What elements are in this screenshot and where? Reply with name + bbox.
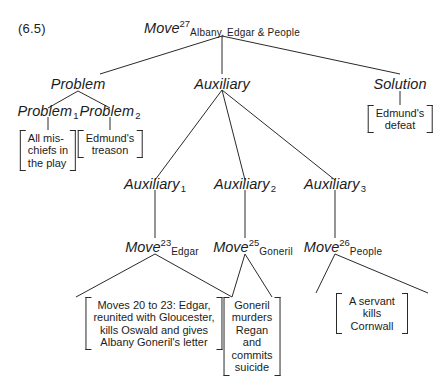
bracket-right — [136, 130, 142, 158]
leaf-move-23: Moves 20 to 23: Edgar, reunited with Glo… — [85, 297, 222, 350]
node-auxiliary: Auxiliary — [194, 77, 250, 92]
leaf-solution: Edmund's defeat — [368, 105, 433, 133]
leaf-problem-2: Edmund's treason — [78, 130, 143, 158]
node-auxiliary-3-label: Auxiliary — [304, 176, 360, 192]
leaf-problem-1: All mis- chiefs in the play — [20, 130, 76, 171]
node-move-26-subscript: People — [350, 246, 382, 257]
node-auxiliary-2-index: 2 — [270, 183, 276, 194]
bracket-right — [402, 293, 408, 334]
node-auxiliary-3: Auxiliary3 — [304, 177, 366, 193]
bracket-right — [426, 105, 432, 133]
node-move-23-name: Move — [125, 239, 160, 255]
node-solution: Solution — [373, 77, 426, 92]
leaf-problem-2-text: Edmund's treason — [84, 130, 137, 158]
syntax-tree-figure: (6.5) — [0, 0, 444, 391]
bracket-right — [274, 297, 280, 376]
node-problem-label: Problem — [51, 76, 106, 92]
node-auxiliary-1: Auxiliary1 — [124, 177, 186, 193]
node-auxiliary-1-label: Auxiliary — [124, 176, 180, 192]
leaf-solution-text: Edmund's defeat — [374, 105, 427, 133]
node-problem-2: Problem2 — [79, 104, 140, 120]
node-move-23: Move23Edgar — [125, 238, 199, 257]
bracket-right — [217, 297, 223, 350]
node-move-27-subscript: Albany, Edgar & People — [190, 27, 300, 38]
node-move-26-superscript: 26 — [339, 237, 350, 248]
node-move-26: Move26People — [304, 238, 382, 257]
leaf-move-25: Goneril murders Regan and commits suicid… — [224, 297, 281, 376]
node-problem-2-index: 2 — [134, 110, 140, 121]
node-auxiliary-2: Auxiliary2 — [214, 177, 276, 193]
node-move-23-subscript: Edgar — [171, 246, 199, 257]
node-move-27: Move27Albany, Edgar & People — [144, 19, 300, 38]
node-move-23-superscript: 23 — [161, 237, 172, 248]
node-move-27-superscript: 27 — [180, 18, 191, 29]
node-move-25: Move25Goneril — [213, 238, 293, 257]
leaf-problem-1-text: All mis- chiefs in the play — [26, 130, 70, 171]
node-problem-2-label: Problem — [79, 103, 134, 119]
node-auxiliary-label: Auxiliary — [194, 76, 250, 92]
node-auxiliary-2-label: Auxiliary — [214, 176, 270, 192]
leaf-move-23-text: Moves 20 to 23: Edgar, reunited with Glo… — [91, 297, 216, 350]
node-move-25-subscript: Goneril — [259, 246, 293, 257]
node-move-25-name: Move — [213, 239, 248, 255]
bracket-right — [70, 130, 76, 171]
figure-number: (6.5) — [18, 21, 46, 36]
node-move-25-superscript: 25 — [249, 237, 260, 248]
node-move-26-name: Move — [304, 239, 339, 255]
leaf-move-25-text: Goneril murders Regan and commits suicid… — [230, 297, 275, 376]
node-auxiliary-1-index: 1 — [180, 183, 186, 194]
node-problem: Problem — [51, 77, 106, 92]
node-problem-1: Problem1 — [17, 104, 78, 120]
node-problem-1-index: 1 — [72, 110, 78, 121]
leaf-move-26: A servant kills Cornwall — [336, 293, 408, 334]
node-solution-label: Solution — [373, 76, 426, 92]
node-problem-1-label: Problem — [17, 103, 72, 119]
node-auxiliary-3-index: 3 — [360, 183, 366, 194]
node-move-27-name: Move — [144, 20, 179, 36]
leaf-move-26-text: A servant kills Cornwall — [342, 293, 402, 334]
